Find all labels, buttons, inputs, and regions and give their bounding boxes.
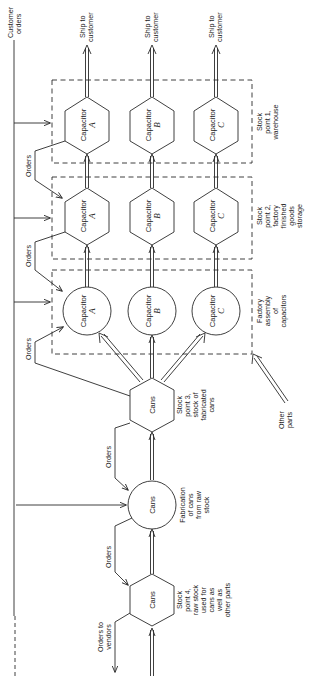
orders-path-assembly [35, 327, 130, 396]
svg-text:stock: stock [202, 496, 211, 513]
svg-text:B: B [152, 308, 162, 314]
sp3-cans-label: Cans [148, 396, 157, 414]
sp2-to-sp1-arrows [84, 154, 219, 188]
svg-text:capacitors: capacitors [279, 294, 288, 327]
svg-text:other parts: other parts [223, 582, 232, 617]
svg-text:warehouse: warehouse [271, 104, 280, 140]
raw-stock-in-arrow [149, 628, 155, 676]
svg-text:Cans: Cans [148, 591, 157, 609]
svg-text:parts: parts [285, 412, 294, 428]
orders-label-5: Orders [104, 546, 113, 568]
orders-path-sp2 [35, 232, 65, 291]
svg-text:cans: cans [207, 397, 216, 413]
other-parts-arrow [252, 354, 288, 403]
assembly-to-sp2-arrows [84, 245, 219, 287]
ship-label-c: Ship to customer [207, 12, 224, 42]
svg-text:A: A [87, 308, 97, 315]
ship-label-b: Ship to customer [143, 12, 160, 42]
sp1-node-c-label: Capacitor C [208, 108, 226, 141]
svg-text:A: A [87, 213, 97, 220]
orders-path-sp3 [115, 423, 130, 490]
assembly-node-c-label: Capacitor C [208, 294, 226, 327]
svg-text:vendors: vendors [104, 624, 113, 650]
svg-text:Orders: Orders [24, 245, 33, 267]
sp1-node-b-label: Capacitor B [144, 108, 162, 141]
svg-text:customer: customer [215, 12, 224, 42]
stock-point-2-label: Stock point 2, factory finished goods st… [255, 204, 304, 229]
sp2-node-c-label: Capacitor C [208, 199, 226, 232]
svg-text:C: C [216, 307, 226, 314]
orders-label-2: Orders [24, 245, 33, 267]
orders-to-vendors-path [115, 613, 130, 672]
sp1-node-a-label: Capacitor A [79, 108, 97, 141]
orders-path-sp1 [35, 141, 65, 198]
inventory-flow-diagram: Customer orders Ship to customer Ship to… [0, 0, 310, 676]
svg-text:B: B [152, 213, 162, 219]
svg-text:Orders: Orders [24, 338, 33, 360]
svg-text:A: A [87, 122, 97, 129]
ship-label-a: Ship to customer [78, 12, 95, 42]
sp2-node-b-label: Capacitor B [144, 199, 162, 232]
fabrication-label: Fabrication of cans from raw stock [178, 487, 211, 523]
assembly-node-b-label: Capacitor B [144, 294, 162, 327]
svg-text:Cans: Cans [148, 396, 157, 414]
assembly-node-a-label: Capacitor A [79, 294, 97, 327]
sp2-node-a-label: Capacitor A [79, 199, 97, 232]
svg-text:Orders: Orders [24, 155, 33, 177]
fab-to-sp3-arrow [149, 432, 155, 480]
svg-text:Orders: Orders [104, 546, 113, 568]
cans-to-assembly-arrows [99, 333, 205, 382]
sp4-to-fab-arrow [149, 529, 155, 574]
svg-text:Orders: Orders [104, 446, 113, 468]
svg-text:B: B [152, 122, 162, 128]
svg-text:orders: orders [14, 13, 23, 34]
orders-path-fab [115, 518, 132, 585]
orders-label-1: Orders [24, 155, 33, 177]
svg-text:Cans: Cans [148, 496, 157, 514]
sp4-cans-label: Cans [148, 591, 157, 609]
orders-label-3: Orders [24, 338, 33, 360]
svg-text:customer: customer [86, 12, 95, 42]
ship-arrows [83, 45, 220, 97]
orders-to-vendors-label: Orders to vendors [96, 622, 113, 652]
svg-text:C: C [216, 121, 226, 128]
orders-label-4: Orders [104, 446, 113, 468]
stock-point-4-label: Stock point 4, raw stock used for cans a… [175, 582, 232, 617]
svg-text:customer: customer [151, 12, 160, 42]
svg-text:C: C [216, 212, 226, 219]
svg-text:storage: storage [295, 204, 304, 228]
other-parts-label: Other parts [277, 410, 294, 429]
customer-orders-label: Customer orders [6, 6, 23, 38]
stock-point-1-label: Stock point 1, warehouse [255, 104, 280, 140]
stock-point-3-label: Stock point 3, stock of fabricated cans [175, 389, 216, 421]
factory-assembly-label: Factory assembly of capacitors [255, 294, 288, 327]
fab-cans-label: Cans [148, 496, 157, 514]
